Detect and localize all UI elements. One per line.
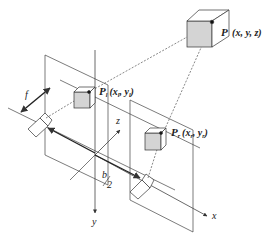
z-axis-label: z: [115, 115, 120, 126]
axis-extension: [70, 155, 95, 180]
right-projected-cube: [145, 128, 166, 150]
svg-text:2: 2: [107, 179, 112, 190]
right-image-plane: [130, 100, 193, 232]
baseline-label: b 2: [102, 169, 112, 190]
x-axis-label: x: [211, 210, 217, 221]
z-axis: [95, 130, 120, 155]
world-point-label: P (x, y, z): [221, 26, 262, 39]
baseline-arrow: [48, 128, 140, 178]
left-projected-cube: [74, 87, 95, 108]
left-image-point-label: Pl(xl, yl): [99, 85, 134, 98]
right-image-point-label: Pr(xr, yr): [171, 126, 208, 139]
y-axis-label: y: [91, 216, 97, 227]
left-image-plane: [45, 55, 108, 185]
stereo-vision-diagram: P (x, y, z) Pl(xl, yl) Pr(xr, yr) f b 2 …: [0, 0, 279, 241]
right-camera-icon: [130, 174, 154, 199]
focal-length-label: f: [25, 89, 29, 100]
left-camera-icon: [28, 113, 52, 137]
